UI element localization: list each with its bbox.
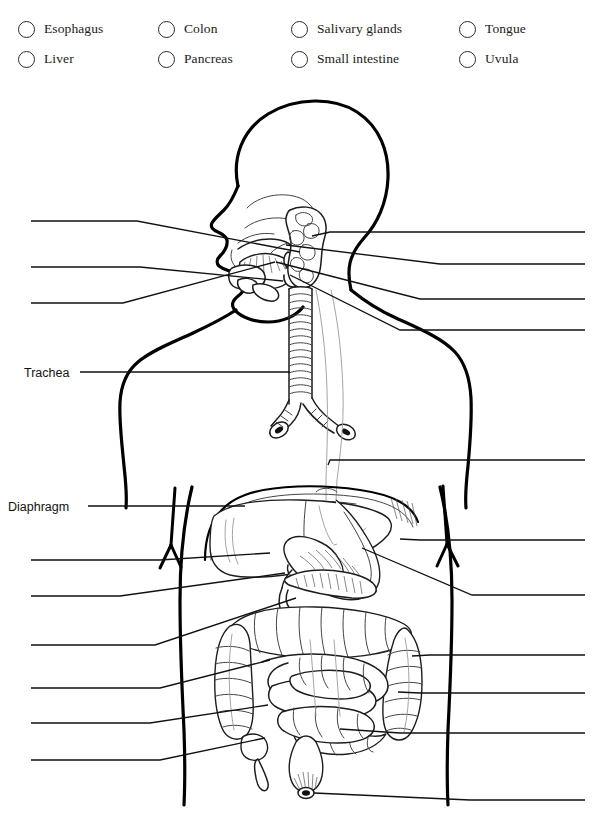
answer-line-right-7[interactable] [362, 548, 585, 595]
answer-line-right-2[interactable] [286, 245, 585, 264]
answer-line-right-1[interactable] [312, 232, 585, 236]
answer-line-right-9[interactable] [398, 692, 585, 693]
anus [302, 790, 310, 796]
answer-line-left-9[interactable] [31, 738, 265, 760]
answer-line-right-10[interactable] [340, 729, 585, 733]
esophagus [316, 290, 343, 500]
answer-line-right-5[interactable] [328, 460, 585, 465]
trachea [267, 287, 358, 443]
worksheet-page: Esophagus Liver Colon Pancreas Salivary … [0, 0, 594, 832]
answer-line-right-3[interactable] [276, 262, 585, 299]
answer-line-right-11[interactable] [314, 793, 585, 800]
answer-line-right-6[interactable] [400, 539, 585, 540]
answer-line-right-4[interactable] [290, 275, 585, 330]
digestive-system-diagram [0, 0, 594, 832]
answer-line-right-8[interactable] [412, 655, 585, 656]
rectum [289, 736, 323, 799]
